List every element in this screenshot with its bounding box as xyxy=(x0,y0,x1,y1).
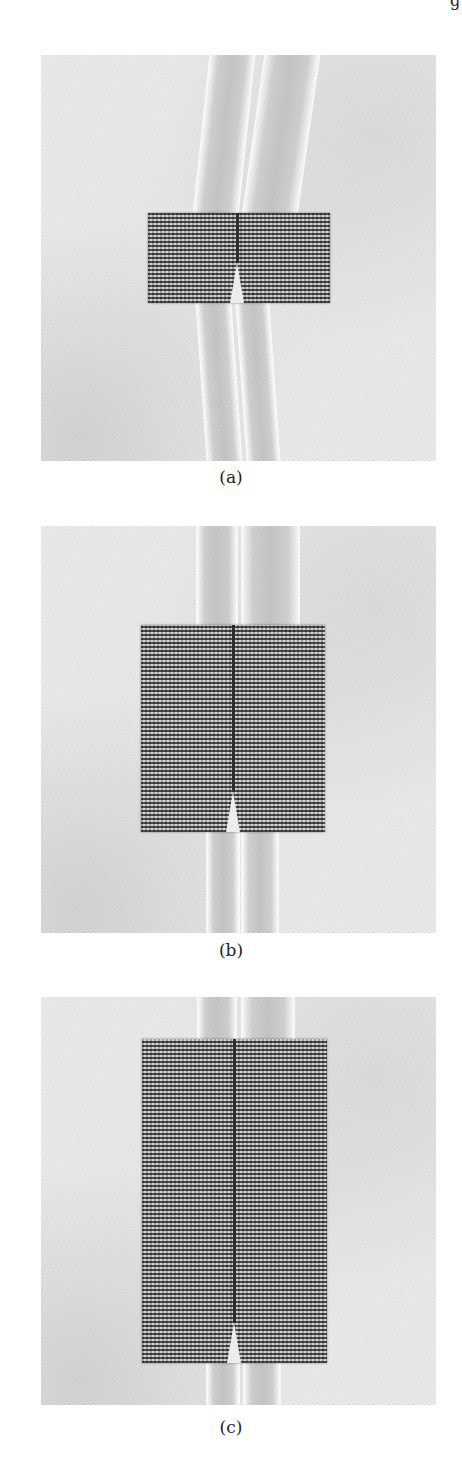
center-slit xyxy=(233,1039,236,1323)
center-slit xyxy=(236,213,239,263)
feed-trace-right-bottom xyxy=(241,832,279,933)
feed-trace-right-bottom xyxy=(235,303,280,461)
bottom-notch xyxy=(226,792,240,832)
micrograph-panel-c xyxy=(41,997,436,1405)
bottom-notch xyxy=(227,1323,241,1363)
feed-trace-left-bottom xyxy=(195,303,242,461)
running-header-fragment: g xyxy=(450,0,462,10)
caption-b: (b) xyxy=(0,940,462,960)
feed-trace-left-top xyxy=(196,526,238,626)
feed-trace-right-top xyxy=(241,997,295,1039)
feed-trace-right-top xyxy=(241,526,300,626)
feed-trace-left-bottom xyxy=(206,1363,240,1405)
micrograph-panel-a xyxy=(41,55,436,461)
feed-trace-right-bottom xyxy=(243,1363,281,1405)
center-slit xyxy=(232,625,235,792)
bottom-notch xyxy=(230,263,244,303)
feed-trace-left-bottom xyxy=(206,832,240,933)
micrograph-panel-b xyxy=(41,526,436,933)
feed-trace-right-top xyxy=(242,55,320,215)
feed-trace-left-top xyxy=(197,997,237,1039)
caption-c: (c) xyxy=(0,1417,462,1437)
caption-a: (a) xyxy=(0,467,462,487)
